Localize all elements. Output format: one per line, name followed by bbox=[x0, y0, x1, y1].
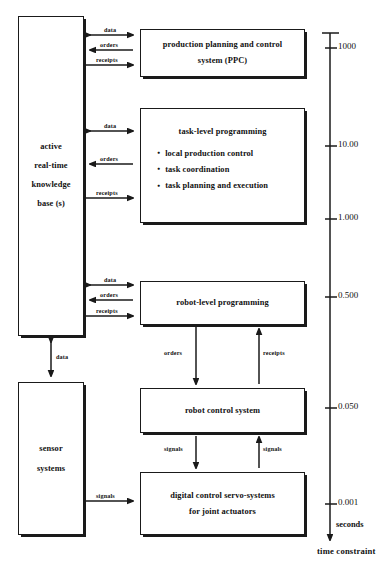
task-bullet-3: task planning and execution bbox=[157, 181, 268, 190]
robot-level-label: robot-level programming bbox=[176, 295, 268, 311]
kb-line-2: real-time bbox=[34, 157, 67, 176]
edge-label-robot-receipts: receipts bbox=[95, 307, 119, 314]
edge-label-signals-down: signals bbox=[163, 445, 184, 452]
edge-label-task-receipts: receipts bbox=[95, 189, 119, 196]
axis-tick-10-00: 10.00 bbox=[338, 139, 358, 149]
block-task-level-programming: task-level programming local production … bbox=[140, 108, 305, 223]
axis-tick-0-050: 0.050 bbox=[338, 401, 358, 411]
axis-tick-1000: 1000 bbox=[338, 41, 356, 51]
edge-label-signals-up: signals bbox=[262, 445, 283, 452]
sensor-line-2: systems bbox=[37, 459, 65, 478]
edge-label-sensor-signals: signals bbox=[95, 492, 116, 499]
edge-label-orders-down: orders bbox=[163, 349, 183, 356]
ppc-line-2: system (PPC) bbox=[198, 53, 247, 69]
axis-tick-1-000: 1.000 bbox=[338, 212, 358, 222]
edge-label-task-data: data bbox=[103, 122, 117, 129]
block-active-realtime-knowledge-base: active real-time knowledge base (s) bbox=[18, 16, 84, 336]
axis-tick-0-001: 0.001 bbox=[338, 497, 358, 507]
axis-caption: time constraint bbox=[317, 546, 376, 556]
edge-label-kb-sensor-data: data bbox=[55, 353, 69, 360]
edge-label-robot-data: data bbox=[103, 276, 117, 283]
edge-label-task-orders: orders bbox=[99, 155, 119, 162]
edge-label-robot-orders: orders bbox=[99, 291, 119, 298]
block-digital-control-servo-systems: digital control servo-systems for joint … bbox=[140, 472, 305, 535]
edge-label-ppc-data: data bbox=[103, 26, 117, 33]
kb-line-4: base (s) bbox=[37, 195, 65, 214]
edge-label-ppc-orders: orders bbox=[99, 41, 119, 48]
task-bullet-1: local production control bbox=[157, 149, 253, 158]
block-robot-level-programming: robot-level programming bbox=[140, 281, 305, 325]
edge-label-ppc-receipts: receipts bbox=[95, 56, 119, 63]
servo-line-2: for joint actuators bbox=[189, 504, 256, 520]
block-production-planning-control-system: production planning and control system (… bbox=[140, 29, 305, 77]
kb-line-3: knowledge bbox=[31, 176, 70, 195]
block-sensor-systems: sensor systems bbox=[18, 382, 84, 535]
architecture-diagram: active real-time knowledge base (s) sens… bbox=[0, 0, 388, 564]
ppc-line-1: production planning and control bbox=[163, 37, 282, 53]
servo-line-1: digital control servo-systems bbox=[170, 488, 275, 504]
edge-label-receipts-up: receipts bbox=[262, 349, 286, 356]
kb-line-1: active bbox=[40, 138, 62, 157]
block-robot-control-system: robot control system bbox=[140, 388, 305, 433]
robot-control-label: robot control system bbox=[185, 403, 260, 419]
task-level-title: task-level programming bbox=[179, 124, 267, 140]
axis-unit-label: seconds bbox=[336, 520, 363, 529]
task-bullet-2: task coordination bbox=[157, 165, 229, 174]
task-level-bullets: local production control task coordinati… bbox=[157, 146, 304, 195]
time-constraint-axis: 1000 10.00 1.000 0.500 0.050 0.001 secon… bbox=[316, 0, 388, 564]
axis-tick-0-500: 0.500 bbox=[338, 290, 358, 300]
sensor-line-1: sensor bbox=[39, 439, 62, 458]
